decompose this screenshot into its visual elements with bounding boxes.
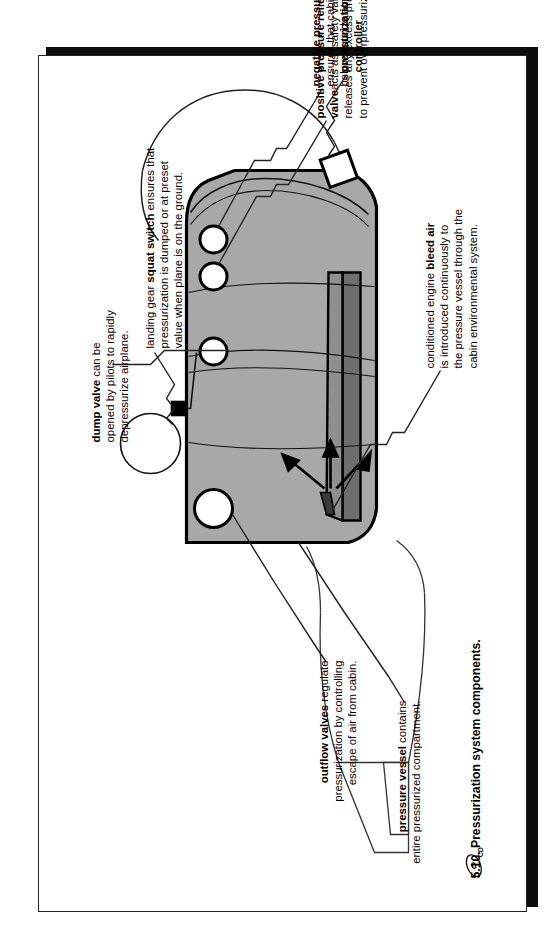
label-outflow-line2: escape of air from cabin. bbox=[344, 660, 358, 888]
label-squat-title-tail: ensures that bbox=[143, 147, 155, 213]
figure-caption-text: Pressurization system components. bbox=[468, 639, 482, 848]
label-outflow-line1: pressurization by controlling bbox=[330, 660, 344, 888]
cabin-floor bbox=[342, 272, 360, 520]
cabin-floor-top bbox=[326, 272, 342, 520]
label-outflow-title-tail: regulate bbox=[317, 660, 329, 704]
label-dump-title-tail: can be bbox=[89, 342, 101, 379]
label-squat-switch: landing gear squat switch ensures that p… bbox=[142, 147, 185, 348]
label-bleed-prefix: conditioned engine bbox=[423, 269, 435, 368]
figure-caption-number: 5.10. bbox=[468, 851, 482, 878]
label-squat-title: squat switch bbox=[143, 213, 155, 282]
label-ppr-title-1: positive pressure relief bbox=[313, 0, 325, 118]
label-outflow-title: outflow valves bbox=[317, 704, 329, 783]
outflow-valve-marker bbox=[194, 489, 232, 527]
figure-caption: 5.10. Pressurization system components. bbox=[468, 639, 482, 878]
negative-pressure-relief-valve-marker bbox=[200, 226, 227, 253]
label-bleed-line1: is introduced continuously to bbox=[436, 208, 450, 368]
label-positive-pressure-relief-valve: positive pressure relief valveacts as “s… bbox=[312, 0, 369, 118]
label-pv-line1: entire pressurized compartment. bbox=[408, 700, 422, 912]
label-bleed-air: conditioned engine bleed air is introduc… bbox=[422, 208, 479, 368]
label-dump-line2: depressurize airplane. bbox=[116, 310, 130, 442]
label-pv-title: pressure vessel bbox=[395, 746, 407, 832]
label-pv-title-tail: contains bbox=[395, 700, 407, 746]
label-ppr-line2: to prevent overpressurization. bbox=[355, 0, 369, 118]
pressurization-system-artwork bbox=[38, 55, 527, 912]
label-bleed-line3: cabin environmental system. bbox=[465, 208, 479, 368]
figure-caption-row: CD 5.10. Pressurization system component… bbox=[468, 639, 482, 878]
label-ppr-line1: releases any excess pressure bbox=[340, 0, 354, 118]
label-squat-prefix: landing gear bbox=[143, 282, 155, 348]
label-pressure-vessel: pressure vessel contains entire pressuri… bbox=[394, 700, 422, 912]
label-dump-title: dump valve bbox=[89, 379, 101, 442]
label-squat-line1: pressurization is dumped or at preset bbox=[156, 147, 170, 348]
label-outflow-valves: outflow valves regulate pressurization b… bbox=[316, 660, 359, 888]
label-bleed-title: bleed air bbox=[423, 222, 435, 269]
diagram-canvas: negative pressure relief valve ensures t… bbox=[38, 55, 527, 912]
label-dump-valve: dump valve can be opened by pilots to ra… bbox=[88, 310, 131, 442]
figure-frame: negative pressure relief valve ensures t… bbox=[38, 55, 527, 912]
label-ppr-title-tail: acts as “safety valve,” bbox=[327, 0, 339, 89]
squat-switch-box bbox=[171, 401, 185, 415]
positive-pressure-relief-valve-marker bbox=[200, 263, 227, 290]
label-bleed-line2: the pressure vessel through the bbox=[450, 208, 464, 368]
figure-page: negative pressure relief valve ensures t… bbox=[0, 0, 559, 948]
label-ppr-title-2: valve bbox=[327, 89, 339, 118]
label-dump-line1: opened by pilots to rapidly bbox=[102, 310, 116, 442]
label-squat-line2: value when plane is on the ground. bbox=[170, 147, 184, 348]
